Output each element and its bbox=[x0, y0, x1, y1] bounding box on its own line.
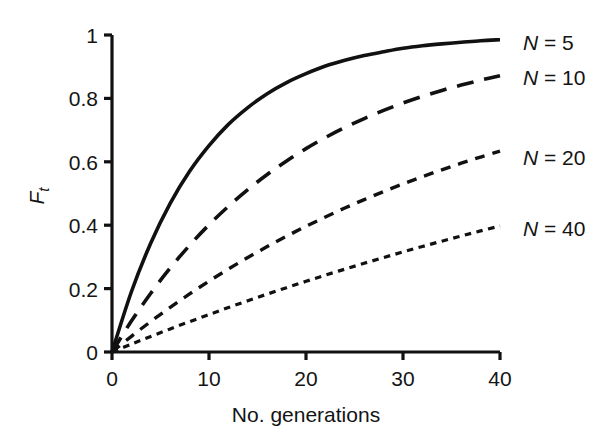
y-tick-label: 0.8 bbox=[69, 88, 98, 109]
series-label-symbol: N bbox=[523, 146, 538, 169]
series-label-equals: = bbox=[538, 146, 562, 169]
series-line-10 bbox=[112, 76, 500, 352]
series-line-40 bbox=[112, 226, 500, 352]
y-tick-label: 1 bbox=[86, 25, 98, 46]
series-label-value: 20 bbox=[562, 146, 585, 169]
y-axis-title: Ft bbox=[26, 188, 51, 205]
y-tick-label: 0.6 bbox=[69, 151, 98, 172]
axes-group bbox=[104, 35, 500, 360]
series-label-10: N = 10 bbox=[523, 67, 585, 88]
series-line-5 bbox=[112, 40, 500, 352]
series-lines-group bbox=[112, 40, 500, 352]
series-label-equals: = bbox=[538, 217, 562, 240]
y-tick-label: 0 bbox=[86, 342, 98, 363]
series-label-symbol: N bbox=[523, 217, 538, 240]
series-label-20: N = 20 bbox=[523, 147, 585, 168]
x-tick-label: 30 bbox=[391, 368, 414, 389]
series-label-value: 10 bbox=[562, 66, 585, 89]
series-label-value: 40 bbox=[562, 217, 585, 240]
series-label-40: N = 40 bbox=[523, 218, 585, 239]
x-tick-label: 10 bbox=[197, 368, 220, 389]
series-line-20 bbox=[112, 151, 500, 352]
y-tick-label: 0.4 bbox=[69, 215, 98, 236]
x-tick-label: 40 bbox=[488, 368, 511, 389]
series-label-symbol: N bbox=[523, 66, 538, 89]
series-label-symbol: N bbox=[523, 31, 538, 54]
y-axis-title-subscript: t bbox=[35, 188, 52, 192]
series-label-equals: = bbox=[538, 66, 562, 89]
x-tick-label: 20 bbox=[294, 368, 317, 389]
y-axis-title-base: F bbox=[25, 192, 48, 205]
series-label-5: N = 5 bbox=[523, 32, 574, 53]
y-tick-label: 0.2 bbox=[69, 278, 98, 299]
series-label-value: 5 bbox=[562, 31, 574, 54]
x-tick-label: 0 bbox=[106, 368, 118, 389]
series-label-equals: = bbox=[538, 31, 562, 54]
figure-canvas: 00.20.40.60.81 010203040 N = 5N = 10N = … bbox=[0, 0, 608, 441]
x-axis-title: No. generations bbox=[232, 404, 380, 425]
